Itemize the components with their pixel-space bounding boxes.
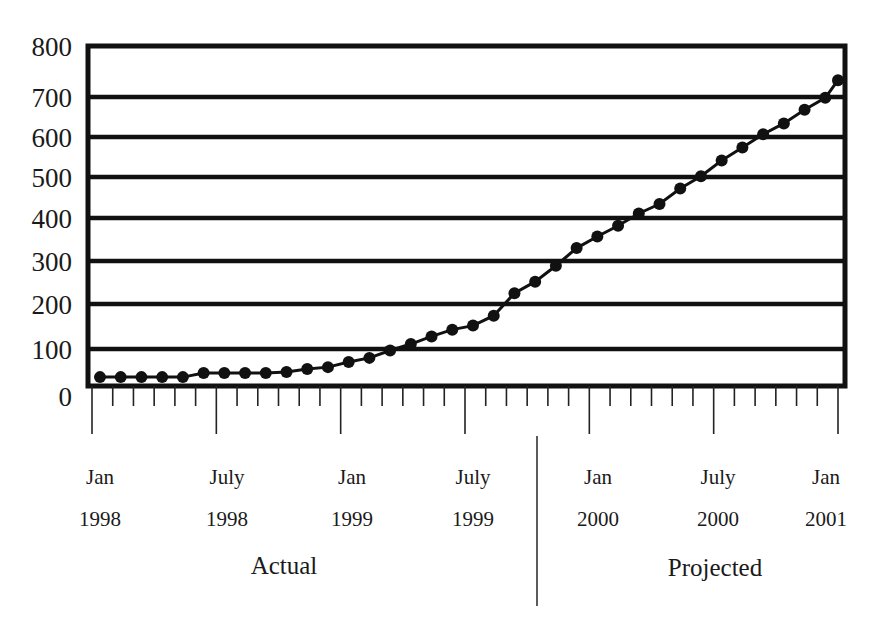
data-point: [156, 371, 168, 383]
x-label-month: Jan: [86, 465, 114, 489]
line-chart: 0100200300400500600700800 Jan1998July199…: [0, 0, 879, 629]
y-tick-label: 100: [32, 335, 73, 365]
y-tick-label: 200: [32, 290, 73, 320]
data-point: [322, 361, 334, 373]
x-label-month: Jan: [812, 465, 840, 489]
y-tick-label: 0: [59, 382, 73, 412]
x-label-year: 2000: [697, 507, 739, 531]
data-point: [571, 242, 583, 254]
data-point: [716, 155, 728, 167]
data-point: [260, 367, 272, 379]
data-point: [384, 344, 396, 356]
data-point: [488, 310, 500, 322]
x-label-year: 2000: [577, 507, 619, 531]
x-label-month: July: [700, 465, 736, 489]
series-line: [100, 80, 838, 377]
y-tick-label: 600: [32, 123, 73, 153]
section-label-actual: Actual: [251, 552, 318, 579]
data-point: [819, 92, 831, 104]
x-label-year: 1999: [331, 507, 373, 531]
data-point: [135, 371, 147, 383]
y-axis-tick-labels: 0100200300400500600700800: [32, 32, 73, 412]
y-tick-label: 500: [32, 163, 73, 193]
data-point: [446, 324, 458, 336]
data-point: [198, 367, 210, 379]
data-series: [94, 74, 844, 383]
data-point: [612, 220, 624, 232]
data-point: [281, 366, 293, 378]
data-point: [654, 198, 666, 210]
x-label-month: July: [209, 465, 245, 489]
data-point: [778, 117, 790, 129]
x-label-year: 1999: [452, 507, 494, 531]
x-label-year: 2001: [805, 507, 847, 531]
x-axis-labels: Jan1998July1998Jan1999July1999Jan2000Jul…: [79, 465, 847, 531]
y-tick-label: 700: [32, 83, 73, 113]
data-point: [343, 356, 355, 368]
data-point: [799, 104, 811, 116]
data-point: [529, 276, 541, 288]
section-label-projected: Projected: [668, 554, 763, 581]
data-point: [467, 320, 479, 332]
data-point: [591, 230, 603, 242]
data-point: [177, 371, 189, 383]
x-label-year: 1998: [206, 507, 248, 531]
data-point: [674, 182, 686, 194]
y-tick-label: 400: [32, 204, 73, 234]
data-point: [301, 363, 313, 375]
data-point: [508, 287, 520, 299]
x-label-month: Jan: [338, 465, 366, 489]
y-tick-label: 800: [32, 32, 73, 62]
data-point: [405, 338, 417, 350]
x-label-month: July: [455, 465, 491, 489]
gridlines: [88, 97, 845, 349]
data-point: [426, 330, 438, 342]
data-point: [94, 371, 106, 383]
data-point: [550, 260, 562, 272]
x-label-year: 1998: [79, 507, 121, 531]
data-point: [736, 141, 748, 153]
data-point: [239, 367, 251, 379]
section-labels: ActualProjected: [251, 436, 763, 606]
x-axis-ticks: [92, 386, 838, 434]
data-point: [115, 371, 127, 383]
y-tick-label: 300: [32, 247, 73, 277]
data-point: [218, 367, 230, 379]
data-point: [757, 128, 769, 140]
data-point: [633, 207, 645, 219]
data-point: [695, 170, 707, 182]
data-point: [832, 74, 844, 86]
data-point: [363, 352, 375, 364]
x-label-month: Jan: [584, 465, 612, 489]
